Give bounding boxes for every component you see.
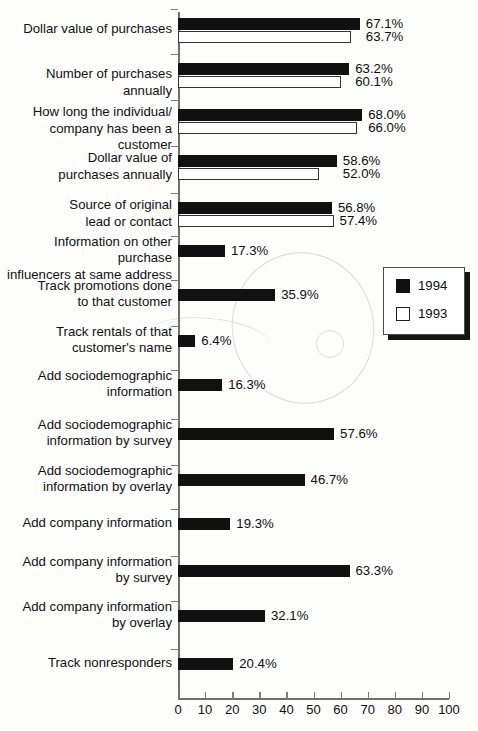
y-tick (171, 280, 178, 281)
legend-swatch-icon-1993 (396, 307, 410, 321)
x-tick (232, 692, 233, 699)
category-label: Add company informationby survey (0, 554, 172, 587)
category-label-line: How long the individual/ (0, 104, 172, 121)
y-tick (171, 556, 178, 557)
category-label-line: Dollar value of purchases (0, 21, 172, 38)
category-label: Track rentals of thatcustomer's name (0, 324, 172, 357)
y-tick (171, 326, 178, 327)
category-label-line: customer's name (0, 340, 172, 357)
y-tick (171, 509, 178, 510)
x-tick (341, 692, 342, 699)
x-tick-label: 100 (429, 702, 469, 717)
legend: 1994 1993 (383, 267, 465, 335)
category-label: Add company informationby overlay (0, 599, 172, 632)
y-tick (171, 146, 178, 147)
bar-1994 (178, 565, 350, 577)
x-tick (449, 692, 450, 699)
bar-1994 (178, 202, 332, 214)
category-label: Track nonresponders (0, 655, 172, 672)
bar-value-label-1994: 63.3% (356, 563, 393, 578)
category-label-line: Number of purchases annually (0, 66, 172, 99)
x-tick (422, 692, 423, 699)
category-label-line: Track promotions done (0, 278, 172, 295)
y-tick (171, 370, 178, 371)
bar-value-label-1994: 6.4% (201, 333, 231, 348)
category-label-line: by survey (0, 570, 172, 587)
category-label-line: lead or contact (0, 214, 172, 231)
x-tick (205, 692, 206, 699)
bar-1993 (178, 76, 341, 88)
legend-swatch-icon-1994 (396, 279, 410, 293)
bar-1994 (178, 658, 233, 670)
legend-item-1994: 1994 (396, 278, 447, 293)
bar-value-label-1993: 57.4% (340, 213, 377, 228)
category-label: Add company information (0, 515, 172, 532)
category-label-line: Source of original (0, 197, 172, 214)
bar-1994 (178, 245, 225, 257)
y-tick (171, 100, 178, 101)
bar-value-label-1994: 32.1% (271, 608, 308, 623)
bar-value-label-1994: 20.4% (239, 656, 276, 671)
category-label: How long the individual/company has been… (0, 104, 172, 154)
y-tick (171, 236, 178, 237)
x-tick (395, 692, 396, 699)
category-label: Dollar value of purchases (0, 21, 172, 38)
bar-chart: 0102030405060708090100 67.1%63.7%Dollar … (0, 0, 478, 731)
y-tick (171, 9, 178, 10)
bar-1993 (178, 31, 351, 43)
category-label: Track promotions doneto that customer (0, 278, 172, 311)
bar-1994 (178, 289, 275, 301)
category-label-line: Track rentals of that (0, 324, 172, 341)
category-label-line: information by overlay (0, 479, 172, 496)
category-label-line: purchases annually (0, 167, 172, 184)
category-label-line: by overlay (0, 615, 172, 632)
category-label-line: Add company information (0, 515, 172, 532)
category-label: Source of originallead or contact (0, 197, 172, 230)
category-label-line: Track nonresponders (0, 655, 172, 672)
x-tick (368, 692, 369, 699)
x-tick (178, 692, 179, 699)
y-tick (171, 649, 178, 650)
bar-value-label-1993: 52.0% (343, 166, 380, 181)
category-label: Dollar value ofpurchases annually (0, 150, 172, 183)
category-label-line: information by survey (0, 433, 172, 450)
bar-1994 (178, 428, 334, 440)
bar-value-label-1994: 46.7% (311, 472, 348, 487)
bar-value-label-1994: 19.3% (236, 516, 273, 531)
plot-area: 0102030405060708090100 67.1%63.7%Dollar … (0, 0, 478, 731)
category-label-line: information (0, 384, 172, 401)
category-label: Add sociodemographicinformation by overl… (0, 463, 172, 496)
legend-label-1993: 1993 (418, 306, 447, 321)
category-label: Information on other purchaseinfluencers… (0, 234, 172, 284)
y-tick (171, 601, 178, 602)
category-label-line: Add company information (0, 599, 172, 616)
x-tick (259, 692, 260, 699)
bar-1994 (178, 63, 349, 75)
category-label-line: Add sociodemographic (0, 463, 172, 480)
category-label-line: Information on other purchase (0, 234, 172, 267)
x-tick (314, 692, 315, 699)
y-tick (171, 419, 178, 420)
legend-item-1993: 1993 (396, 306, 447, 321)
bar-1993 (178, 122, 357, 134)
category-label-line: Dollar value of (0, 150, 172, 167)
bar-1993 (178, 168, 319, 180)
category-label: Add sociodemographicinformation by surve… (0, 417, 172, 450)
bar-1994 (178, 610, 265, 622)
y-tick (171, 193, 178, 194)
bar-value-label-1993: 63.7% (366, 29, 403, 44)
bar-1994 (178, 109, 362, 121)
category-label-line: Add sociodemographic (0, 417, 172, 434)
category-label: Add sociodemographicinformation (0, 368, 172, 401)
legend-label-1994: 1994 (418, 278, 447, 293)
y-tick (171, 54, 178, 55)
bar-value-label-1994: 35.9% (281, 287, 318, 302)
category-label: Number of purchases annually (0, 66, 172, 99)
bar-1994 (178, 335, 195, 347)
y-tick (171, 465, 178, 466)
bar-1993 (178, 215, 334, 227)
category-label-line: Add sociodemographic (0, 368, 172, 385)
bar-1994 (178, 155, 337, 167)
bar-1994 (178, 18, 360, 30)
category-label-line: Add company information (0, 554, 172, 571)
